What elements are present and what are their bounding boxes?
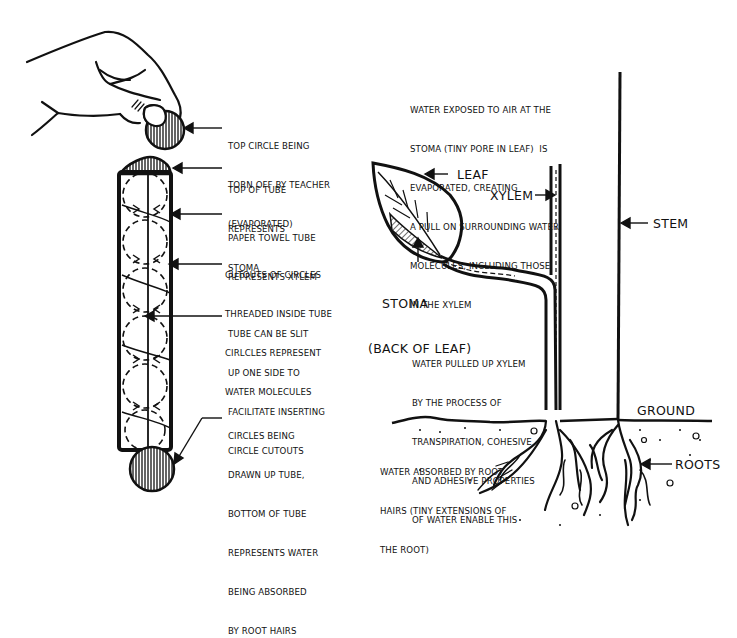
label-stem: STEM bbox=[653, 216, 688, 231]
stem-icon bbox=[618, 72, 620, 420]
label-leaf: LEAF bbox=[457, 167, 489, 182]
label-bottom: CIRCLES BEING DRAWN UP TUBE, BOTTOM OF T… bbox=[228, 404, 318, 638]
label-roots: ROOTS bbox=[675, 457, 720, 472]
label-absorbed: WATER ABSORBED BY ROOT HAIRS (TINY EXTEN… bbox=[380, 440, 506, 583]
paper-tube-icon bbox=[119, 157, 171, 450]
label-ground: GROUND bbox=[637, 403, 695, 418]
label-xylem: XYLEM bbox=[490, 188, 533, 203]
bottom-circle-icon bbox=[130, 447, 174, 491]
